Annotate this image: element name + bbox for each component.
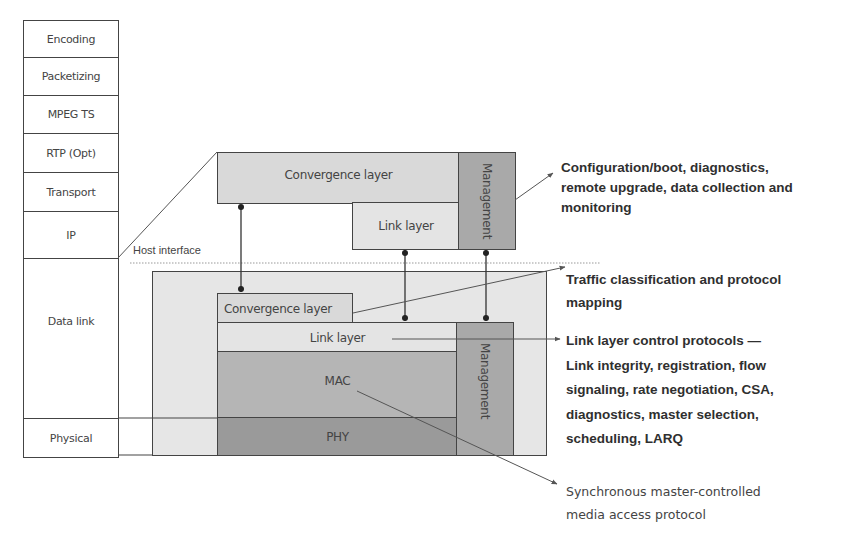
annotation-line: scheduling, LARQ — [566, 427, 774, 452]
stack-layer-label: Transport — [47, 186, 96, 199]
host-convergence-layer: Convergence layer — [217, 152, 460, 204]
device-link-label: Link layer — [310, 331, 366, 345]
annotation-line: Synchronous master-controlled — [566, 480, 761, 503]
annotation-convergence: Traffic classification and protocol mapp… — [566, 268, 781, 314]
stack-layer-label: Packetizing — [42, 70, 101, 83]
device-management-label: Management — [478, 343, 492, 419]
stack-layer-label: RTP (Opt) — [46, 147, 96, 160]
device-convergence-layer: Convergence layer — [217, 293, 353, 324]
device-management: Management — [456, 322, 514, 456]
stack-layer-label: MPEG TS — [48, 108, 95, 121]
host-management-label: Management — [480, 163, 494, 239]
annotation-line: monitoring — [561, 198, 793, 218]
stack-layer-physical: Physical — [23, 418, 119, 458]
device-link-layer: Link layer — [217, 322, 458, 353]
stack-layer-packetizing: Packetizing — [23, 57, 119, 96]
annotation-line: signaling, rate negotiation, CSA, — [566, 378, 774, 403]
stack-layer-label: Physical — [50, 432, 92, 445]
stack-layer-mpeg-ts: MPEG TS — [23, 95, 119, 134]
device-convergence-label: Convergence layer — [224, 302, 332, 316]
stack-layer-data-link: Data link — [23, 258, 119, 419]
stack-layer-label: Data link — [48, 315, 95, 328]
device-mac-label: MAC — [325, 374, 351, 388]
annotation-line: Configuration/boot, diagnostics, — [561, 158, 793, 178]
stack-layer-label: IP — [66, 229, 75, 242]
host-convergence-label: Convergence layer — [285, 168, 393, 182]
annotation-management: Configuration/boot, diagnostics, remote … — [561, 158, 793, 218]
stack-layer-label: Encoding — [47, 33, 95, 46]
stack-layer-rtp: RTP (Opt) — [23, 133, 119, 173]
stack-layer-transport: Transport — [23, 172, 119, 212]
host-link-layer: Link layer — [352, 202, 460, 250]
annotation-line: Traffic classification and protocol — [566, 268, 781, 291]
annotation-line: diagnostics, master selection, — [566, 403, 774, 428]
host-interface-label: Host interface — [133, 244, 201, 256]
annotation-mac: Synchronous master-controlled media acce… — [566, 480, 761, 526]
device-phy-label: PHY — [326, 430, 349, 444]
annotation-line: remote upgrade, data collection and — [561, 178, 793, 198]
annotation-line: media access protocol — [566, 503, 761, 526]
host-management: Management — [458, 152, 516, 250]
stack-layer-ip: IP — [23, 211, 119, 259]
device-mac: MAC — [217, 351, 458, 419]
annotation-line: Link integrity, registration, flow — [566, 354, 774, 379]
annotation-line: mapping — [566, 291, 781, 314]
host-link-label: Link layer — [378, 219, 434, 233]
annotation-link-layer: Link layer control protocols — Link inte… — [566, 329, 774, 452]
stack-layer-encoding: Encoding — [23, 20, 119, 58]
annotation-line: Link layer control protocols — — [566, 329, 774, 354]
device-phy: PHY — [217, 417, 458, 456]
